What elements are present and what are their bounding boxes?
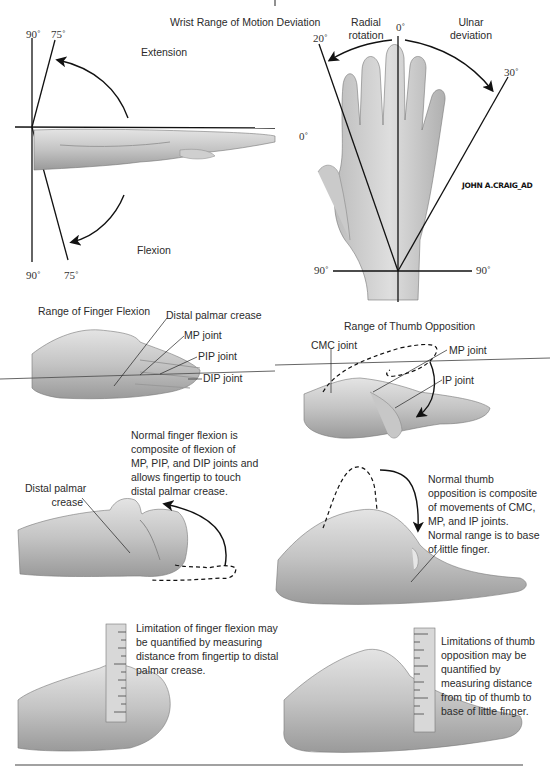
artist-signature: JOHN A.CRAIG_AD <box>462 181 532 190</box>
finger-flexion-description: Normal finger flexion is composite of fl… <box>131 428 258 498</box>
angle-label-30: 30˚ <box>504 66 519 78</box>
description-line: Normal range is to base <box>428 528 539 542</box>
wrist-deviation-diagram <box>318 36 508 302</box>
description-line: measuring distance <box>441 676 535 690</box>
thumb-opposition-description: Normal thumb opposition is composite of … <box>428 472 539 556</box>
description-line: allows fingertip to touch <box>131 470 258 484</box>
crease-label: Distal palmar crease <box>25 481 83 509</box>
radial-label-line1: Radial <box>346 16 386 29</box>
description-line: distance from fingertip to distal <box>136 649 278 663</box>
label-mp-joint-thumb: MP joint <box>449 344 487 357</box>
finger-measure-description: Limitation of finger flexion may be quan… <box>136 621 278 677</box>
description-line: from tip of thumb to <box>441 690 535 704</box>
label-ip-joint: IP joint <box>442 374 474 387</box>
description-line: opposition is composite <box>428 486 539 500</box>
thumb-extended-hand <box>275 345 550 439</box>
label-distal-palmar-crease: Distal palmar crease <box>166 309 262 322</box>
description-line: MP, and IP joints. <box>428 514 539 528</box>
label-dip-joint: DIP joint <box>203 372 243 385</box>
angle-label-75-top: 75˚ <box>51 28 66 40</box>
thumb-opposition-title: Range of Thumb Opposition <box>344 320 475 333</box>
finger-flexion-title: Range of Finger Flexion <box>38 305 150 318</box>
description-line: palmar crease. <box>136 663 278 677</box>
description-line: Limitation of finger flexion may <box>136 621 278 635</box>
angle-label-90-right: 90˚ <box>476 264 491 276</box>
description-line: of little finger. <box>428 542 539 556</box>
description-line: Normal thumb <box>428 472 539 486</box>
ulnar-label-line2: deviation <box>444 29 498 42</box>
label-mp-joint: MP joint <box>184 329 222 342</box>
description-line: MP, PIP, and DIP joints and <box>131 456 258 470</box>
wrist-diagram-title: Wrist Range of Motion Deviation <box>170 16 320 29</box>
flexion-label: Flexion <box>137 244 171 257</box>
angle-label-90-left: 90˚ <box>314 264 329 276</box>
label-cmc-joint: CMC joint <box>311 339 357 352</box>
radial-label-line2: rotation <box>342 29 390 42</box>
wrist-flexion-extension-diagram <box>15 38 275 262</box>
description-line: Limitations of thumb <box>441 634 535 648</box>
extension-label: Extension <box>141 46 187 59</box>
description-line: of movements of CMC, <box>428 500 539 514</box>
crease-label-line: crease <box>25 495 83 509</box>
description-line: Normal finger flexion is <box>131 428 258 442</box>
thumb-measure-description: Limitations of thumb opposition may be q… <box>441 634 535 718</box>
label-pip-joint: PIP joint <box>198 350 237 363</box>
finger-flexed-fist <box>18 498 236 580</box>
angle-label-0-vertical: 0˚ <box>396 21 405 33</box>
angle-label-0-horizontal: 0˚ <box>299 130 308 142</box>
crease-label-line: Distal palmar <box>25 481 83 495</box>
description-line: quantified by <box>441 662 535 676</box>
description-line: distal palmar crease. <box>131 484 258 498</box>
angle-label-20: 20˚ <box>313 32 328 44</box>
angle-label-90-top: 90˚ <box>26 28 41 40</box>
angle-label-90-bottom: 90˚ <box>26 269 41 281</box>
description-line: opposition may be <box>441 648 535 662</box>
description-line: composite of flexion of <box>131 442 258 456</box>
ulnar-label-line1: Ulnar <box>446 16 496 29</box>
angle-label-75-bottom: 75˚ <box>64 269 79 281</box>
description-line: base of little finger. <box>441 704 535 718</box>
description-line: be quantified by measuring <box>136 635 278 649</box>
